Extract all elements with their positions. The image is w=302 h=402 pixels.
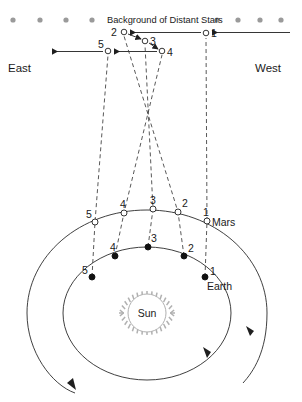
sky-marker-label-1: 1 — [211, 27, 217, 39]
earth-orbit-direction-arrow — [203, 347, 211, 358]
earth-marker-label-3: 3 — [151, 232, 157, 244]
sky-marker-4 — [159, 48, 165, 54]
mars-marker-label-1: 1 — [203, 206, 209, 218]
sun-icon: Sun — [119, 291, 175, 335]
earth-marker-label-2: 2 — [188, 242, 194, 254]
sky-marker-2 — [121, 29, 127, 35]
star-dot — [10, 17, 15, 22]
sight-line-1 — [205, 38, 207, 277]
sky-marker-3 — [142, 38, 148, 44]
diagram-title: Background of Distant Stars — [107, 15, 223, 25]
star-dot — [89, 17, 94, 22]
sight-line-5 — [92, 55, 108, 277]
mars-marker-4 — [121, 210, 127, 216]
sky-marker-label-3: 3 — [150, 35, 156, 47]
mars-label: Mars — [212, 216, 235, 228]
mars-marker-2 — [175, 209, 181, 215]
star-dot — [278, 17, 283, 22]
mars-orbit-path — [27, 210, 147, 393]
earth-marker-label-1: 1 — [210, 265, 216, 277]
sight-line-3 — [145, 45, 153, 247]
path-arrow-2-to-3 — [128, 34, 141, 39]
star-dot — [257, 17, 262, 22]
direction-label-west: West — [255, 62, 282, 74]
earth-marker-label-4: 4 — [110, 241, 116, 253]
sky-marker-label-2: 2 — [111, 26, 117, 38]
mars-marker-label-3: 3 — [150, 194, 156, 206]
mars-orbit-direction-arrow-right — [246, 326, 254, 336]
retrograde-motion-diagram: Background of Distant Stars 1 2 3 — [0, 0, 302, 402]
star-dot — [37, 17, 42, 22]
star-dot — [235, 17, 240, 22]
mars-marker-label-4: 4 — [120, 198, 126, 210]
sight-line-2 — [124, 36, 184, 256]
sky-marker-1 — [203, 30, 209, 36]
earth-marker-5 — [89, 274, 95, 280]
sky-marker-label-4: 4 — [167, 46, 173, 58]
earth-marker-2 — [181, 253, 187, 259]
sun-label: Sun — [138, 307, 157, 319]
earth-positions: 1 2 3 4 5 Earth — [82, 232, 232, 292]
mars-marker-5 — [92, 219, 98, 225]
earth-marker-3 — [145, 244, 151, 250]
sight-line-4 — [115, 55, 162, 256]
sky-marker-5 — [105, 48, 111, 54]
earth-label: Earth — [207, 280, 232, 292]
mars-marker-1 — [204, 218, 210, 224]
mars-marker-3 — [150, 206, 156, 212]
earth-marker-label-5: 5 — [82, 264, 88, 276]
sky-position-markers: 1 2 3 4 5 — [98, 26, 217, 58]
star-dot — [63, 17, 68, 22]
sky-marker-label-5: 5 — [98, 38, 104, 50]
direction-label-east: East — [8, 62, 32, 74]
mars-orbit-direction-arrow-left — [67, 378, 76, 390]
earth-marker-4 — [112, 253, 118, 259]
mars-marker-label-5: 5 — [86, 208, 92, 220]
mars-marker-label-2: 2 — [182, 197, 188, 209]
